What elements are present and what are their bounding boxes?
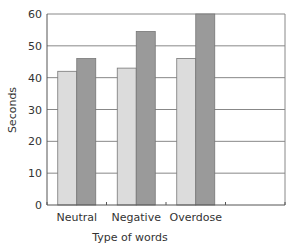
- bar-overdose-2: [196, 14, 215, 205]
- bar-chart: 0102030405060 NeutralNegativeOverdose Ty…: [0, 0, 300, 251]
- bar-neutral-2: [77, 59, 96, 205]
- y-tick-label: 20: [28, 135, 42, 148]
- x-tick-labels: NeutralNegativeOverdose: [56, 211, 222, 224]
- x-tick-label: Negative: [112, 211, 162, 224]
- y-tick-labels: 0102030405060: [28, 8, 42, 212]
- bar-negative-1: [117, 68, 136, 205]
- x-tick-label: Overdose: [170, 211, 223, 224]
- y-tick-label: 10: [28, 167, 42, 180]
- bar-negative-2: [136, 32, 155, 205]
- y-tick-label: 0: [35, 199, 42, 212]
- y-tick-label: 40: [28, 72, 42, 85]
- bar-neutral-1: [58, 71, 77, 205]
- x-tick-label: Neutral: [56, 211, 97, 224]
- y-tick-label: 60: [28, 8, 42, 21]
- y-axis-title: Seconds: [6, 87, 19, 133]
- y-tick-label: 50: [28, 40, 42, 53]
- bars: [58, 14, 215, 205]
- bar-overdose-1: [177, 59, 196, 205]
- x-axis-title: Type of words: [91, 231, 168, 244]
- y-tick-label: 30: [28, 104, 42, 117]
